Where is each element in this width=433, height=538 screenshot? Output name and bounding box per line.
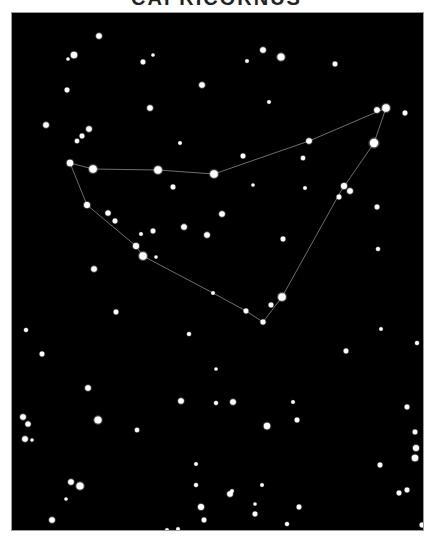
constellation-star bbox=[84, 202, 90, 208]
field-star bbox=[96, 33, 102, 39]
constellation-star bbox=[139, 232, 143, 236]
constellation-star bbox=[341, 183, 347, 189]
field-star bbox=[147, 105, 153, 111]
field-star bbox=[260, 483, 264, 487]
field-star bbox=[378, 463, 383, 468]
field-star bbox=[178, 398, 184, 404]
field-star bbox=[333, 62, 338, 67]
constellation-star bbox=[244, 309, 249, 314]
constellation-star bbox=[219, 211, 225, 217]
constellation-star bbox=[306, 138, 312, 144]
field-star bbox=[375, 205, 380, 210]
background-stars bbox=[19, 32, 424, 531]
field-star bbox=[141, 60, 146, 65]
field-star bbox=[49, 517, 55, 523]
constellation-line bbox=[70, 108, 386, 322]
constellation-star bbox=[210, 170, 218, 178]
field-star bbox=[403, 111, 408, 116]
constellation-star bbox=[133, 243, 139, 249]
field-star bbox=[176, 527, 180, 531]
field-star bbox=[76, 482, 83, 489]
field-star bbox=[251, 183, 254, 186]
constellation-star bbox=[337, 195, 342, 200]
field-star bbox=[178, 141, 182, 145]
constellation-stars bbox=[65, 102, 392, 325]
field-star bbox=[412, 455, 418, 461]
constellation-star bbox=[269, 303, 274, 308]
field-star bbox=[295, 418, 300, 423]
field-star bbox=[379, 327, 383, 331]
field-star bbox=[65, 88, 70, 93]
star-field-frame bbox=[11, 12, 424, 531]
constellation-star bbox=[89, 165, 97, 173]
field-star bbox=[187, 332, 191, 336]
field-star bbox=[24, 328, 28, 332]
field-star bbox=[245, 59, 249, 63]
field-star bbox=[80, 134, 85, 139]
field-star bbox=[66, 57, 69, 60]
field-star bbox=[297, 505, 302, 510]
field-star bbox=[64, 497, 67, 500]
constellation-star bbox=[382, 104, 390, 112]
field-star bbox=[241, 154, 246, 159]
field-star bbox=[22, 436, 28, 442]
constellation-star bbox=[105, 210, 110, 215]
field-star bbox=[303, 186, 307, 190]
field-star bbox=[281, 237, 286, 242]
field-star bbox=[376, 247, 380, 251]
field-star bbox=[264, 423, 270, 429]
field-star bbox=[253, 502, 256, 505]
field-star bbox=[230, 489, 234, 493]
field-star bbox=[202, 518, 207, 523]
field-star bbox=[91, 266, 97, 272]
field-star bbox=[415, 341, 419, 345]
constellation-star bbox=[374, 107, 380, 113]
field-star bbox=[285, 522, 289, 526]
constellation-star bbox=[154, 166, 162, 174]
field-star bbox=[291, 400, 295, 404]
field-star bbox=[135, 428, 139, 432]
star-chart bbox=[12, 13, 424, 531]
constellation-star bbox=[181, 224, 187, 230]
constellation-star bbox=[347, 188, 353, 194]
field-star bbox=[277, 53, 284, 60]
field-star bbox=[194, 483, 198, 487]
field-star bbox=[71, 52, 77, 58]
field-star bbox=[199, 82, 205, 88]
constellation-star bbox=[278, 293, 286, 301]
field-star bbox=[114, 310, 119, 315]
field-star bbox=[68, 479, 74, 485]
constellation-star bbox=[151, 229, 156, 234]
constellation-star bbox=[370, 139, 378, 147]
field-star bbox=[405, 488, 410, 493]
constellation-star bbox=[261, 320, 266, 325]
field-star bbox=[344, 349, 349, 354]
field-star bbox=[151, 53, 154, 56]
field-star bbox=[214, 401, 218, 405]
field-star bbox=[267, 100, 271, 104]
field-star bbox=[405, 405, 410, 410]
constellation-star bbox=[211, 291, 215, 295]
constellation-star bbox=[204, 232, 210, 238]
field-star bbox=[30, 438, 33, 441]
field-star bbox=[413, 430, 418, 435]
field-star bbox=[40, 352, 45, 357]
constellation-star bbox=[171, 185, 176, 190]
field-star bbox=[413, 445, 419, 451]
field-star bbox=[397, 491, 402, 496]
field-star bbox=[253, 512, 258, 517]
field-star bbox=[75, 139, 79, 143]
field-star bbox=[230, 399, 236, 405]
field-star bbox=[260, 47, 266, 53]
constellation-star bbox=[113, 219, 118, 224]
field-star bbox=[43, 122, 49, 128]
field-star bbox=[214, 367, 217, 370]
field-star bbox=[20, 414, 26, 420]
field-star bbox=[94, 416, 101, 423]
field-star bbox=[25, 421, 30, 426]
field-star bbox=[194, 462, 198, 466]
constellation-star bbox=[67, 160, 73, 166]
constellation-star bbox=[139, 252, 147, 260]
field-star bbox=[301, 156, 305, 160]
constellation-lines bbox=[70, 108, 386, 322]
